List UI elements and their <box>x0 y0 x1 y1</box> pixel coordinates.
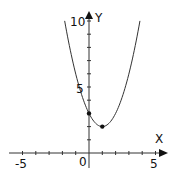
x-axis-arrow-icon <box>159 149 168 157</box>
x-tick-label-max: 5 <box>150 157 158 171</box>
origin-label: 0 <box>79 155 87 169</box>
parabola-curve <box>65 21 140 127</box>
y-axis-arrow-icon <box>85 11 93 19</box>
y-axis-label: Y <box>94 11 103 25</box>
vertex-point <box>100 124 104 128</box>
y-intercept-point <box>87 111 91 115</box>
y-tick-label-max: 10 <box>70 15 85 29</box>
y-tick-label-mid: 5 <box>76 82 84 96</box>
parabola-chart: X Y -5 0 5 5 10 <box>0 0 178 181</box>
x-axis-label: X <box>155 132 163 146</box>
x-tick-label-min: -5 <box>15 157 27 171</box>
